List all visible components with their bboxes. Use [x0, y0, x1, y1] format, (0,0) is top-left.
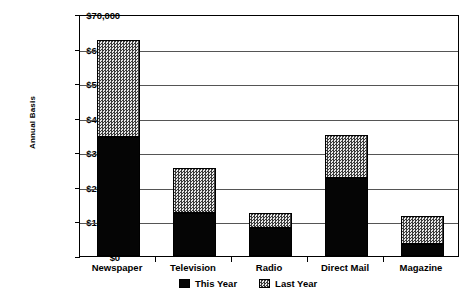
bar-segment-last-year — [401, 216, 444, 244]
bar-segment-last-year — [97, 40, 140, 137]
bar-segment-this-year — [97, 137, 140, 256]
bar-segment-last-year — [173, 168, 216, 213]
legend-label: This Year — [195, 278, 237, 289]
bar-direct-mail — [325, 135, 368, 256]
bar-segment-this-year — [401, 244, 444, 256]
x-axis-tick-mark — [383, 257, 384, 262]
legend-label: Last Year — [275, 278, 317, 289]
bar-segment-this-year — [325, 178, 368, 256]
bar-segment-last-year — [325, 135, 368, 178]
bar-magazine — [401, 216, 444, 256]
x-axis-label-direct-mail: Direct Mail — [321, 262, 369, 273]
solid-black-swatch — [179, 279, 190, 288]
bar-segment-last-year — [249, 213, 292, 229]
y-axis-tick-mark — [75, 257, 80, 258]
x-axis-tick-mark — [231, 257, 232, 262]
bar-television — [173, 168, 216, 256]
bar-radio — [249, 213, 292, 256]
x-axis-tick-mark — [155, 257, 156, 262]
legend: This YearLast Year — [179, 278, 317, 289]
x-axis-label-television: Television — [170, 262, 216, 273]
bar-newspaper — [97, 40, 140, 256]
x-axis-label-magazine: Magazine — [400, 262, 443, 273]
x-axis-label-newspaper: Newspaper — [92, 262, 143, 273]
bar-segment-this-year — [249, 228, 292, 256]
plot-area — [79, 15, 459, 257]
bar-segment-this-year — [173, 213, 216, 256]
checker-gray-swatch — [259, 279, 270, 288]
legend-item-last-year: Last Year — [259, 278, 317, 289]
x-axis-tick-mark — [307, 257, 308, 262]
bar-chart: Annual Basis $0$10,000$20,000$30,000$40,… — [0, 0, 468, 295]
x-axis-label-radio: Radio — [256, 262, 282, 273]
legend-item-this-year: This Year — [179, 278, 237, 289]
